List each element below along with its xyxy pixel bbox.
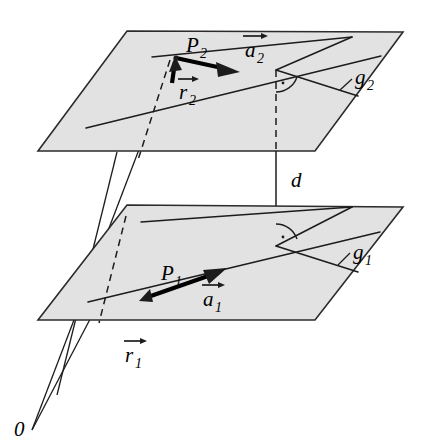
label-g2-subscript: 2 [367,78,374,93]
upper-plane-group [38,31,403,160]
label-g2-base: g [355,65,366,89]
point-P1-marker [145,294,150,299]
label-g1-base: g [353,240,364,264]
label-P2-base: P [185,33,199,57]
upper-plane [38,31,403,151]
label-P1-base: P [160,261,174,285]
label-P2-subscript: 2 [200,46,207,61]
label-r2-base: r [179,80,188,104]
label-g1-subscript: 1 [365,253,372,268]
label-a1-subscript: 1 [215,300,222,315]
label-a2-base: a [245,38,256,62]
geometry-figure: P 2 a 2 r 2 g 2 d P 1 [0,0,429,444]
label-r2-subscript: 2 [189,93,196,108]
label-r1-subscript: 1 [135,356,142,371]
label-r1-base: r [125,343,134,367]
r1-vector-bar-head [140,338,147,344]
right-angle-dot-upper [282,82,285,85]
point-P2-marker [173,55,178,60]
diagram-svg: P 2 a 2 r 2 g 2 d P 1 [0,0,429,444]
label-origin: 0 [14,417,25,441]
label-P1-subscript: 1 [175,274,182,289]
label-a2-subscript: 2 [257,51,264,66]
label-a1-base: a [203,287,214,311]
label-distance: d [291,168,302,192]
label-r1: r 1 [124,338,147,371]
right-angle-dot-lower [282,236,285,239]
